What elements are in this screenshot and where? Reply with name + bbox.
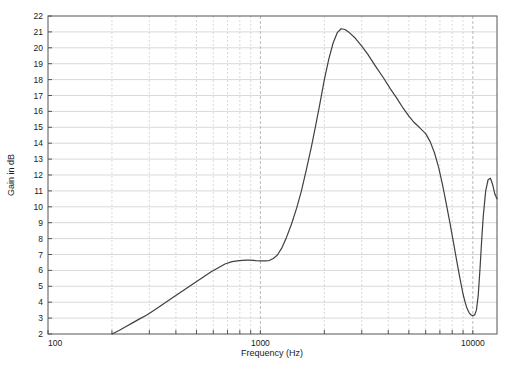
y-tick-label: 12 <box>34 170 44 180</box>
y-axis-title: Gain in dB <box>6 154 16 196</box>
y-tick-label: 22 <box>34 11 44 21</box>
y-tick-label: 13 <box>34 154 44 164</box>
chart-figure: 2345678910111213141516171819202122 10010… <box>0 0 512 370</box>
y-axis-ticks <box>48 16 52 334</box>
y-tick-label: 14 <box>34 138 44 148</box>
y-tick-label: 6 <box>38 265 43 275</box>
y-tick-label: 3 <box>38 313 43 323</box>
y-tick-label: 15 <box>34 122 44 132</box>
y-tick-label: 7 <box>38 250 43 260</box>
y-tick-label: 19 <box>34 59 44 69</box>
frequency-response-plot: 2345678910111213141516171819202122 10010… <box>0 0 512 370</box>
y-tick-label: 17 <box>34 91 44 101</box>
y-tick-label: 16 <box>34 106 44 116</box>
y-tick-label: 5 <box>38 281 43 291</box>
y-tick-label: 21 <box>34 27 44 37</box>
y-tick-label: 18 <box>34 75 44 85</box>
x-tick-label: 1000 <box>251 338 270 348</box>
y-tick-label: 11 <box>34 186 43 196</box>
x-axis-title: Frequency (Hz) <box>241 348 303 358</box>
x-tick-label: 10000 <box>461 338 485 348</box>
y-tick-label: 2 <box>38 329 43 339</box>
y-tick-label: 4 <box>38 297 43 307</box>
y-tick-label: 9 <box>38 218 43 228</box>
y-tick-label: 10 <box>34 202 44 212</box>
x-tick-label: 100 <box>48 338 62 348</box>
x-axis-ticks <box>48 330 473 334</box>
y-tick-label: 8 <box>38 234 43 244</box>
y-tick-label: 20 <box>34 43 44 53</box>
